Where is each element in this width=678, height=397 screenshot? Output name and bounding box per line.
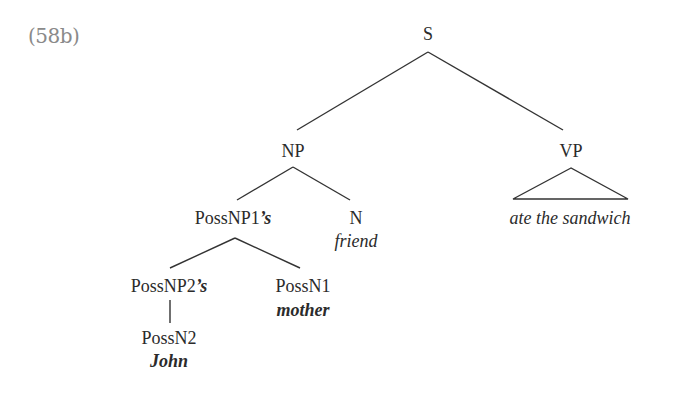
node-vp: VP — [559, 141, 582, 161]
edge-possnp1-possn1 — [235, 238, 300, 268]
tree-edges — [0, 0, 678, 397]
edge-s-vp — [428, 52, 563, 130]
edge-possnp1-possnp2 — [170, 238, 235, 268]
edge-s-np — [297, 52, 428, 130]
possn2-word: John — [150, 351, 188, 371]
node-possn2: PossN2 — [141, 328, 196, 348]
n-word: friend — [335, 231, 378, 251]
node-np: NP — [281, 141, 304, 161]
node-possnp2: PossNP2’s — [131, 276, 208, 296]
possnp2-suffix: ’s — [196, 276, 208, 296]
vp-triangle — [513, 168, 628, 199]
possnp2-label: PossNP2 — [131, 276, 196, 296]
edge-np-possnp1 — [237, 167, 293, 200]
vp-terminal: ate the sandwich — [510, 208, 631, 228]
possnp1-suffix: ’s — [260, 208, 272, 228]
possnp1-label: PossNP1 — [195, 208, 260, 228]
node-s: S — [423, 24, 433, 44]
node-n: N — [350, 208, 363, 228]
edge-np-n — [293, 167, 350, 200]
possn1-word: mother — [276, 300, 329, 320]
node-possnp1: PossNP1’s — [195, 208, 272, 228]
node-possn1: PossN1 — [275, 276, 330, 296]
